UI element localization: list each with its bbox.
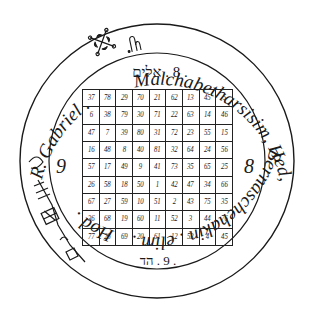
table-row: 77286920611253445 bbox=[83, 228, 233, 245]
table-cell: 58 bbox=[100, 176, 114, 193]
table-cell: 51 bbox=[150, 193, 164, 210]
table-cell: 57 bbox=[84, 159, 98, 176]
table-cell: 5 bbox=[217, 90, 231, 107]
table-row: 67275910512437535 bbox=[83, 193, 233, 210]
table-cell: 68 bbox=[100, 211, 114, 228]
table-cell: 44 bbox=[200, 211, 214, 228]
table-cell: 22 bbox=[167, 107, 181, 124]
side-number-right: 8 bbox=[244, 155, 254, 178]
hebrew-label-bottom: . 9 . הד bbox=[128, 253, 188, 269]
magic-square: 3778297021621345563879307122631446477398… bbox=[82, 89, 233, 246]
table-cell: 14 bbox=[200, 107, 214, 124]
table-cell: 50 bbox=[134, 176, 148, 193]
table-cell: 60 bbox=[134, 211, 148, 228]
table-cell: 40 bbox=[134, 141, 148, 158]
table-cell: 77 bbox=[84, 228, 98, 245]
lunar-seal-glyph-icon bbox=[125, 35, 141, 52]
table-cell: 49 bbox=[117, 159, 131, 176]
magic-square-table: 3778297021621345563879307122631446477398… bbox=[82, 89, 233, 246]
table-cell: 26 bbox=[84, 176, 98, 193]
table-cell: 73 bbox=[167, 159, 181, 176]
table-cell: 9 bbox=[134, 159, 148, 176]
table-cell: 79 bbox=[117, 107, 131, 124]
side-number-left: 9 bbox=[56, 155, 66, 178]
table-cell: 39 bbox=[117, 124, 131, 141]
table-cell: 70 bbox=[134, 90, 148, 107]
table-cell: 65 bbox=[200, 159, 214, 176]
table-cell: 76 bbox=[217, 211, 231, 228]
table-cell: 20 bbox=[134, 228, 148, 245]
table-cell: 47 bbox=[184, 176, 198, 193]
table-cell: 35 bbox=[184, 159, 198, 176]
table-cell: 31 bbox=[150, 124, 164, 141]
table-cell: 15 bbox=[217, 124, 231, 141]
table-cell: 38 bbox=[100, 107, 114, 124]
table-cell: 10 bbox=[134, 193, 148, 210]
table-cell: 80 bbox=[134, 124, 148, 141]
table-cell: 18 bbox=[117, 176, 131, 193]
table-cell: 36 bbox=[84, 211, 98, 228]
hebrew-label-top: . 8 . אלים bbox=[115, 64, 205, 81]
table-cell: 12 bbox=[167, 228, 181, 245]
table-cell: 71 bbox=[150, 107, 164, 124]
table-cell: 81 bbox=[150, 141, 164, 158]
table-cell: 42 bbox=[167, 176, 181, 193]
table-cell: 35 bbox=[217, 193, 231, 210]
table-cell: 75 bbox=[200, 193, 214, 210]
table-cell: 7 bbox=[100, 124, 114, 141]
table-cell: 21 bbox=[150, 90, 164, 107]
table-cell: 29 bbox=[117, 90, 131, 107]
table-cell: 8 bbox=[117, 141, 131, 158]
table-row: 63879307122631446 bbox=[83, 107, 233, 124]
table-cell: 56 bbox=[217, 141, 231, 158]
table-cell: 63 bbox=[184, 107, 198, 124]
table-row: 37782970216213455 bbox=[83, 90, 233, 107]
table-cell: 30 bbox=[134, 107, 148, 124]
table-cell: 13 bbox=[184, 90, 198, 107]
table-cell: 41 bbox=[150, 159, 164, 176]
table-cell: 3 bbox=[184, 211, 198, 228]
table-cell: 53 bbox=[184, 228, 198, 245]
table-cell: 43 bbox=[184, 193, 198, 210]
table-cell: 52 bbox=[167, 211, 181, 228]
table-cell: 4 bbox=[200, 228, 214, 245]
table-cell: 62 bbox=[167, 90, 181, 107]
table-row: 57174994173356525 bbox=[83, 159, 233, 176]
table-cell: 45 bbox=[217, 228, 231, 245]
table-cell: 72 bbox=[167, 124, 181, 141]
table-cell: 55 bbox=[200, 124, 214, 141]
table-row: 26581850142473466 bbox=[83, 176, 233, 193]
table-cell: 27 bbox=[100, 193, 114, 210]
table-cell: 28 bbox=[100, 228, 114, 245]
table-cell: 19 bbox=[117, 211, 131, 228]
table-cell: 25 bbox=[217, 159, 231, 176]
table-cell: 11 bbox=[150, 211, 164, 228]
table-cell: 48 bbox=[100, 141, 114, 158]
table-cell: 34 bbox=[200, 176, 214, 193]
table-row: 16488408132642456 bbox=[83, 141, 233, 158]
table-cell: 78 bbox=[100, 90, 114, 107]
table-cell: 23 bbox=[184, 124, 198, 141]
table-cell: 61 bbox=[150, 228, 164, 245]
table-cell: 64 bbox=[184, 141, 198, 158]
table-cell: 24 bbox=[200, 141, 214, 158]
table-cell: 2 bbox=[167, 193, 181, 210]
table-cell: 16 bbox=[84, 141, 98, 158]
table-cell: 69 bbox=[117, 228, 131, 245]
table-cell: 1 bbox=[150, 176, 164, 193]
table-cell: 46 bbox=[217, 107, 231, 124]
table-cell: 66 bbox=[217, 176, 231, 193]
table-cell: 67 bbox=[84, 193, 98, 210]
table-cell: 17 bbox=[100, 159, 114, 176]
table-row: 36681960115234476 bbox=[83, 211, 233, 228]
table-cell: 32 bbox=[167, 141, 181, 158]
table-row: 47739803172235515 bbox=[83, 124, 233, 141]
table-cell: 6 bbox=[84, 107, 98, 124]
table-cell: 37 bbox=[84, 90, 98, 107]
table-cell: 45 bbox=[200, 90, 214, 107]
table-cell: 47 bbox=[84, 124, 98, 141]
table-cell: 59 bbox=[117, 193, 131, 210]
